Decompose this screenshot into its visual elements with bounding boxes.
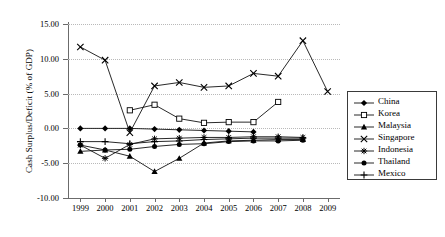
legend-label: China [378,96,400,106]
y-axis-title: Cash Surplus/Deficit (% of GDP) [24,24,34,198]
x-tick [130,198,131,202]
plus-cross-icon [353,167,375,179]
series-korea [127,99,281,125]
x-tick [229,198,230,202]
star-asterisk-icon [353,143,375,155]
x-tick [278,198,279,202]
legend-item-indonesia[interactable]: Indonesia [353,143,436,155]
x-tick [179,198,180,202]
series-lines [68,24,340,198]
chart-figure: 15.0010.005.000.00-5.00-10.00 1999200020… [0,0,445,237]
x-tick-label: 2009 [311,204,345,213]
y-tick [63,198,68,199]
filled-triangle-icon [353,119,375,131]
legend-label: Korea [378,108,400,118]
legend-label: Thailand [378,156,410,166]
legend-item-malaysia[interactable]: Malaysia [353,119,436,131]
filled-circle-icon [353,155,375,167]
open-square-icon [353,107,375,119]
legend-label: Malaysia [378,120,411,130]
legend-label: Mexico [378,168,406,178]
x-tick [105,198,106,202]
x-tick [80,198,81,202]
x-tick [253,198,254,202]
legend-item-thailand[interactable]: Thailand [353,155,436,167]
series-china [77,125,256,135]
x-tick [303,198,304,202]
legend-item-mexico[interactable]: Mexico [353,167,436,179]
legend-label: Singapore [378,132,415,142]
legend-item-korea[interactable]: Korea [353,107,436,119]
chart-legend: ChinaKoreaMalaysiaSingaporeIndonesiaThai… [347,91,437,180]
x-cross-icon [353,131,375,143]
x-tick [204,198,205,202]
x-tick [155,198,156,202]
legend-label: Indonesia [378,144,413,154]
filled-diamond-icon [353,95,375,107]
plot-area: 15.0010.005.000.00-5.00-10.00 1999200020… [68,24,340,198]
legend-item-china[interactable]: China [353,95,436,107]
x-tick [328,198,329,202]
legend-item-singapore[interactable]: Singapore [353,131,436,143]
